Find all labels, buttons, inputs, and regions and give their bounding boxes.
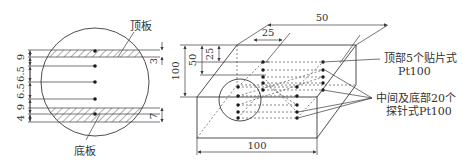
sensor-dot xyxy=(93,112,97,116)
annotation-top-sensors-line1: 顶部5个贴片式 xyxy=(384,51,457,65)
dim-offset-25: 25 xyxy=(262,27,275,38)
dim-height-100: 100 xyxy=(170,61,181,80)
sensor-dot xyxy=(93,80,97,84)
dim-left-2: 6.5 xyxy=(15,66,26,82)
top-plate-label: 顶板 xyxy=(130,19,152,33)
dim-height-25: 25 xyxy=(204,48,215,61)
left-section-view: 9 6.5 6.5 9 4 3 7 顶板 底板 xyxy=(15,19,170,158)
dim-length-100: 100 xyxy=(247,140,266,151)
dim-left-3: 6.5 xyxy=(15,83,26,99)
right-isometric-view: 50 25 100 50 25 xyxy=(170,12,457,155)
sensor-dot xyxy=(93,97,97,101)
sensor-dot xyxy=(93,49,97,53)
dim-left-4: 9 xyxy=(15,104,26,110)
dim-right-bottom: 7 xyxy=(148,113,159,119)
dim-height-50: 50 xyxy=(187,54,198,67)
top-plate xyxy=(30,50,170,57)
bottom-plate-label: 底板 xyxy=(74,144,96,158)
detail-circle xyxy=(219,79,261,121)
sensor-column-front-left xyxy=(236,85,239,119)
sensor-column-front-right xyxy=(295,85,298,119)
dim-left-5: 4 xyxy=(15,115,26,121)
annotation-top-sensors-line2: Pt100 xyxy=(398,65,431,78)
dim-right-top: 3 xyxy=(148,58,159,64)
sensor-layout-diagram: 9 6.5 6.5 9 4 3 7 顶板 底板 xyxy=(0,0,463,168)
sensor-dot xyxy=(93,64,97,68)
dim-width-50: 50 xyxy=(316,12,329,23)
annotation-probe-sensors-line2: 探针式Pt100 xyxy=(386,104,452,118)
dim-left-1: 9 xyxy=(15,54,26,60)
annotation-probe-sensors-line1: 中间及底部20个 xyxy=(376,91,456,105)
